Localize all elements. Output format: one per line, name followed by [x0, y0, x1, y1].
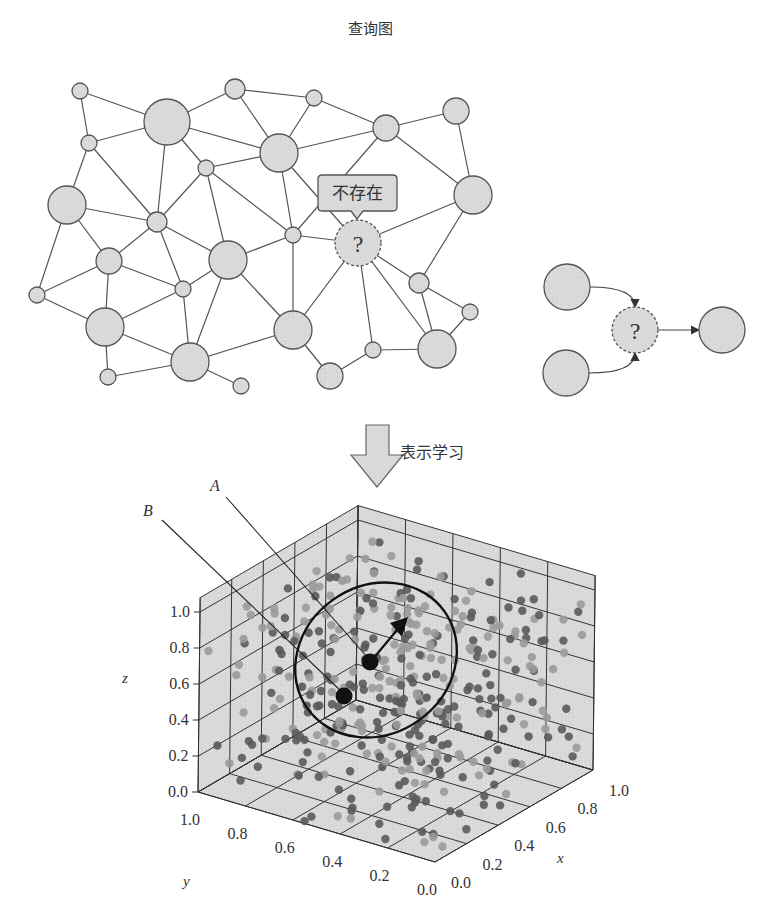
graph-node [29, 287, 45, 303]
graph-node [418, 330, 456, 368]
graph-node [409, 273, 429, 293]
data-point [387, 611, 395, 619]
graph-node [285, 227, 301, 243]
data-point [387, 742, 395, 750]
data-point [343, 575, 351, 583]
graph-node [48, 186, 86, 224]
data-point [239, 708, 247, 716]
data-point [318, 639, 326, 647]
data-point [397, 654, 405, 662]
data-point [381, 835, 389, 843]
data-point [353, 613, 361, 621]
data-point [478, 709, 486, 717]
data-point [572, 744, 580, 752]
data-point [313, 731, 321, 739]
data-point [462, 596, 470, 604]
data-point [369, 589, 377, 597]
data-point [285, 673, 293, 681]
data-point [528, 698, 536, 706]
data-point [299, 758, 307, 766]
data-point [258, 624, 266, 632]
data-point [522, 626, 530, 634]
data-point [235, 660, 243, 668]
label-b: B [143, 502, 153, 519]
graph-node [72, 83, 88, 99]
x-tick-label: 0.0 [451, 874, 471, 891]
data-point [438, 656, 446, 664]
data-point [415, 732, 423, 740]
x-tick-label: 1.0 [609, 782, 629, 799]
data-point [451, 607, 459, 615]
x-tick-label: 0.4 [514, 837, 534, 854]
data-point [334, 812, 342, 820]
data-point [560, 649, 568, 657]
y-tick-label: 0.8 [227, 825, 247, 842]
data-point [496, 801, 504, 809]
data-point [275, 666, 283, 674]
data-point [404, 644, 412, 652]
graph-edge [235, 89, 314, 98]
data-point [347, 814, 355, 822]
data-point [485, 578, 493, 586]
data-point [480, 801, 488, 809]
nonexistent-tooltip: 不存在 [318, 175, 397, 219]
data-point [467, 587, 475, 595]
data-point [456, 753, 464, 761]
data-point [559, 636, 567, 644]
data-point [450, 702, 458, 710]
data-point [369, 634, 377, 642]
data-point [540, 636, 548, 644]
data-point [399, 594, 407, 602]
data-point [450, 595, 458, 603]
data-point [520, 720, 528, 728]
embedding-3d-scatter: AB0.00.20.40.60.81.0z1.00.80.60.40.20.0y… [121, 477, 629, 898]
z-tick-label: 0.8 [170, 639, 190, 656]
data-point [363, 749, 371, 757]
data-point [421, 780, 429, 788]
data-point [356, 705, 364, 713]
data-point [390, 640, 398, 648]
data-point [312, 567, 320, 575]
data-point [368, 538, 376, 546]
data-point [418, 828, 426, 836]
data-point [483, 756, 491, 764]
data-point [357, 589, 365, 597]
data-point [466, 644, 474, 652]
data-point [511, 666, 519, 674]
data-point [412, 621, 420, 629]
side-edge [589, 353, 635, 373]
data-point [397, 681, 405, 689]
data-point [328, 688, 336, 696]
data-point [387, 552, 395, 560]
data-point [479, 654, 487, 662]
data-point [432, 670, 440, 678]
data-point [349, 703, 357, 711]
y-tick-label: 0.4 [322, 853, 342, 870]
data-point [335, 786, 343, 794]
data-point [543, 714, 551, 722]
data-point [453, 713, 461, 721]
side-node [543, 350, 589, 396]
data-point [444, 740, 452, 748]
data-point [311, 592, 319, 600]
data-point [428, 735, 436, 743]
data-point [436, 771, 444, 779]
data-point [517, 596, 525, 604]
side-node [544, 264, 590, 310]
data-point [440, 788, 448, 796]
data-point [373, 718, 381, 726]
diagram-canvas: ? 不存在 ? 表示学习 AB0.00.20.40.60.81.0z1.00.8… [0, 0, 776, 916]
data-point [494, 746, 502, 754]
data-point [465, 682, 473, 690]
data-point [483, 765, 491, 773]
data-point [315, 701, 323, 709]
data-point [347, 807, 355, 815]
data-point [284, 584, 292, 592]
y-tick-label: 0.0 [417, 881, 437, 898]
data-point [320, 738, 328, 746]
data-point [303, 748, 311, 756]
data-point [484, 732, 492, 740]
graph-node [96, 248, 122, 274]
data-point [524, 732, 532, 740]
z-tick-label: 1.0 [170, 603, 190, 620]
